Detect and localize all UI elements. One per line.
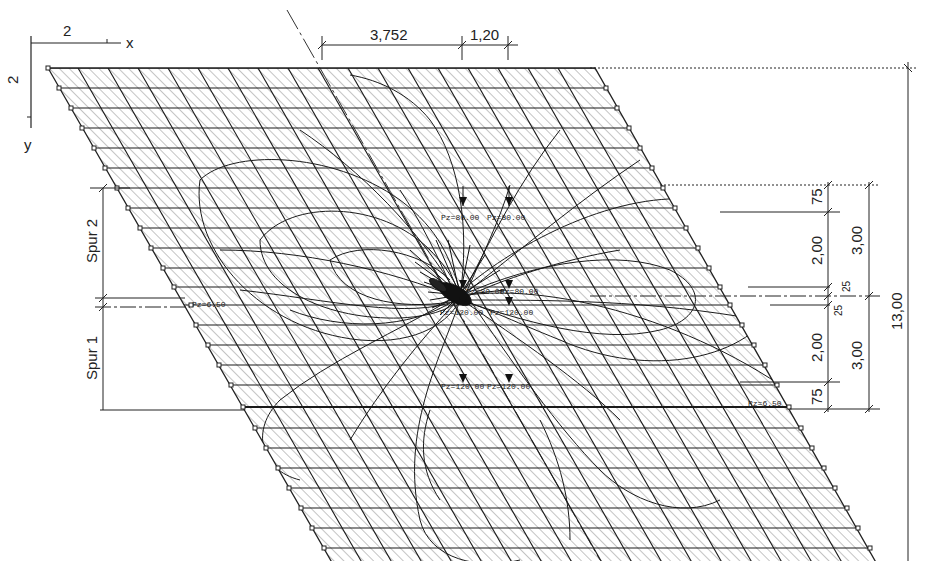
load-label: Pz=120.00 (487, 382, 530, 391)
lane-label-spur-1: Spur 1 (83, 336, 100, 380)
dim-label-300-bottom: 3,00 (848, 341, 865, 370)
dim-label-75-bottom: 75 (808, 388, 825, 405)
load-label: Pz=80.00 (466, 287, 505, 296)
dim-label-200-bottom: 2,00 (808, 333, 825, 362)
diagram-canvas: x y 2 2 (0, 0, 935, 561)
dim-label-1300-total: 13,00 (888, 292, 905, 330)
dimension-label-120: 1,20 (470, 26, 499, 43)
dim-label-25-bottom: 25 (833, 304, 844, 316)
edge-load-label: Pz=6.50 (748, 399, 782, 408)
x-axis-label: x (126, 34, 134, 51)
y-scale-label: 2 (4, 76, 21, 84)
dim-label-25-top: 25 (841, 280, 852, 292)
x-scale-label: 2 (63, 22, 71, 39)
load-label: Pz=80.00 (487, 213, 526, 222)
load-label: Pz=120.00 (440, 308, 483, 317)
dim-label-200-top: 2,00 (808, 236, 825, 265)
dimension-label-3752: 3,752 (370, 26, 408, 43)
load-label: Pz=120.00 (490, 308, 533, 317)
dim-label-300-top: 3,00 (848, 226, 865, 255)
dim-label-75-top: 75 (808, 188, 825, 205)
load-label: Pz=80.00 (500, 287, 539, 296)
edge-load-label: Pz=6.50 (192, 300, 226, 309)
load-label: Pz=120.00 (441, 382, 484, 391)
lane-label-spur-2: Spur 2 (83, 219, 100, 263)
load-label: Pz=80.00 (441, 213, 480, 222)
y-axis-label: y (24, 136, 32, 153)
